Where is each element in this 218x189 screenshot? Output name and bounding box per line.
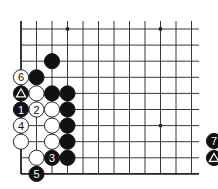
black-stone: 3 (44, 150, 59, 165)
go-board-diagram: 612435 7 (0, 0, 218, 189)
black-stone: 1 (13, 102, 28, 117)
black-stone (60, 150, 75, 165)
move-number: 7 (211, 135, 217, 147)
star-point-icon (159, 27, 163, 31)
black-stone (44, 86, 59, 101)
legend-black-stone (206, 150, 218, 165)
black-stone (60, 118, 75, 133)
white-stone: 4 (13, 118, 28, 133)
move-number: 3 (49, 152, 55, 164)
stones-layer: 612435 (13, 54, 75, 182)
star-point-icon (66, 27, 70, 31)
white-stone (44, 134, 59, 149)
white-stone: 2 (29, 102, 44, 117)
white-stone (29, 150, 44, 165)
white-stone (29, 86, 44, 101)
black-stone: 5 (29, 166, 44, 181)
legend-black-stone: 7 (206, 133, 218, 148)
white-stone (44, 102, 59, 117)
black-stone (60, 134, 75, 149)
legend-partial: 7 (206, 133, 218, 165)
move-number: 6 (18, 71, 24, 83)
move-number: 4 (18, 120, 24, 132)
move-number: 1 (18, 104, 24, 116)
black-stone (60, 102, 75, 117)
white-stone (44, 118, 59, 133)
black-stone (60, 86, 75, 101)
star-point-icon (159, 124, 163, 128)
move-number: 5 (33, 168, 39, 180)
black-stone (13, 86, 28, 101)
black-stone (44, 54, 59, 69)
move-number: 2 (33, 104, 39, 116)
white-stone: 6 (13, 70, 28, 85)
black-stone (29, 70, 44, 85)
white-stone (13, 134, 28, 149)
